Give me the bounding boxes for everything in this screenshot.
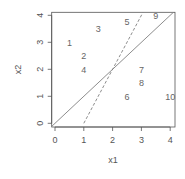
y-tick-label: 4 [35, 13, 45, 18]
x-axis-title: x1 [108, 155, 118, 165]
point-label: 2 [81, 51, 86, 61]
y-tick-label: 0 [35, 121, 45, 126]
y-axis: 01234 [35, 13, 52, 126]
scatter-plot: 12345678910 01234 01234 x1 x2 [0, 0, 185, 179]
point-label: 8 [139, 78, 144, 88]
dashed-line [84, 10, 144, 123]
point-label: 7 [139, 65, 144, 75]
point-label: 10 [165, 92, 175, 102]
plot-area [52, 12, 175, 127]
point-label: 5 [124, 17, 129, 27]
point-label: 6 [124, 92, 129, 102]
point-label: 9 [153, 11, 158, 21]
point-label: 1 [67, 38, 72, 48]
y-tick-label: 2 [35, 67, 45, 72]
point-label: 3 [96, 24, 101, 34]
y-tick-label: 1 [35, 94, 45, 99]
y-tick-label: 3 [35, 40, 45, 45]
reference-lines [51, 10, 176, 127]
y-axis-title: x2 [13, 65, 23, 75]
point-label: 4 [81, 65, 86, 75]
x-tick-label: 1 [81, 135, 86, 145]
x-tick-label: 2 [110, 135, 115, 145]
x-axis: 01234 [52, 127, 172, 145]
data-point-labels: 12345678910 [67, 11, 175, 102]
plot-frame [52, 12, 175, 127]
x-tick-label: 3 [139, 135, 144, 145]
x-tick-label: 0 [52, 135, 57, 145]
x-tick-label: 4 [168, 135, 173, 145]
